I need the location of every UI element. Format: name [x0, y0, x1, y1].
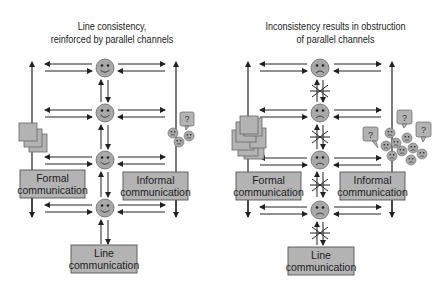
- question-bubble-icon: ?: [180, 112, 194, 130]
- confused-crowd-icon: ? ? ?: [363, 110, 431, 165]
- obstruction-cross-icon: [310, 227, 330, 239]
- svg-text:?: ?: [402, 113, 407, 123]
- smiley-face-icon: [96, 151, 114, 169]
- frowny-face-icon: [311, 201, 329, 219]
- obstruction-cross-icon: [310, 131, 330, 143]
- question-bubble-icon: ?: [416, 122, 431, 142]
- svg-text:Formal: Formal: [36, 172, 69, 184]
- question-bubble-icon: ?: [397, 110, 412, 128]
- informal-communication-box: Informal communication: [120, 172, 191, 200]
- smiley-face-icon: [96, 104, 114, 122]
- right-panel: ? ? ? Formal communi: [232, 59, 431, 275]
- smiley-face-icon: [96, 59, 114, 77]
- svg-text:?: ?: [368, 130, 373, 140]
- svg-text:communication: communication: [286, 261, 357, 273]
- frowny-face-icon: [311, 59, 329, 77]
- documents-pile-icon: [232, 116, 266, 159]
- line-communication-box: Line communication: [286, 247, 357, 275]
- formal-communication-box: Formal communication: [233, 172, 304, 200]
- svg-text:communication: communication: [120, 186, 191, 198]
- svg-text:?: ?: [421, 125, 426, 135]
- informal-people-icon: ?: [168, 112, 194, 147]
- obstruction-cross-icon: [310, 85, 330, 97]
- question-bubble-icon: ?: [363, 127, 378, 148]
- svg-text:communication: communication: [69, 259, 140, 271]
- informal-communication-box: Informal communication: [337, 172, 408, 200]
- documents-stack-icon: [19, 123, 47, 152]
- smiley-face-icon: [96, 199, 114, 217]
- frowny-face-icon: [311, 151, 329, 169]
- obstruction-cross-icon: [310, 179, 330, 191]
- svg-text:communication: communication: [233, 186, 304, 198]
- svg-text:communication: communication: [17, 184, 88, 196]
- formal-communication-box: Formal communication: [17, 170, 88, 198]
- svg-text:Line: Line: [311, 249, 331, 261]
- svg-text:Formal: Formal: [252, 174, 285, 186]
- svg-text:communication: communication: [337, 186, 408, 198]
- svg-text:Line: Line: [94, 247, 114, 259]
- left-panel: ? Formal communication Informal communic…: [17, 59, 194, 273]
- svg-text:Informal: Informal: [137, 174, 175, 186]
- frowny-face-icon: [311, 104, 329, 122]
- diagram-canvas: ? Formal communication Informal communic…: [0, 0, 447, 291]
- svg-text:?: ?: [184, 114, 189, 124]
- svg-text:Informal: Informal: [354, 174, 392, 186]
- line-communication-box: Line communication: [69, 245, 140, 273]
